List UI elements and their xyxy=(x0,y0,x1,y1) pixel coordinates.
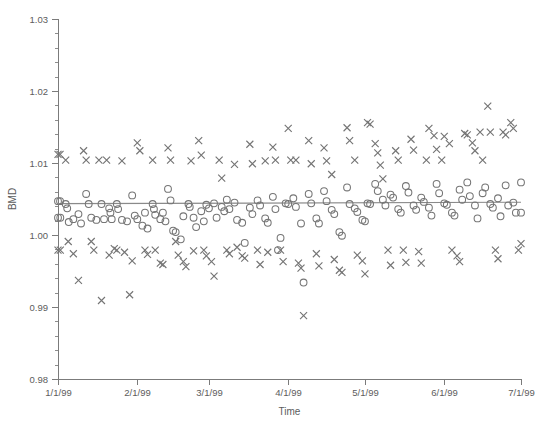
chart-canvas: 0.980.991.001.011.021.03 1/1/992/1/993/1… xyxy=(0,0,547,429)
y-tick-label: 0.98 xyxy=(30,374,49,385)
y-tick-label: 1.01 xyxy=(30,158,49,169)
y-tick-label: 1.02 xyxy=(30,86,49,97)
x-tick-label: 4/1/99 xyxy=(275,387,301,398)
bmd-time-scatter-chart: 0.980.991.001.011.021.03 1/1/992/1/993/1… xyxy=(0,0,547,429)
x-axis-title: Time xyxy=(279,406,301,417)
y-tick-label: 1.03 xyxy=(30,14,49,25)
y-axis-title: BMD xyxy=(7,188,18,210)
x-tick-label: 5/1/99 xyxy=(352,387,378,398)
x-tick-label: 1/1/99 xyxy=(45,387,71,398)
y-tick-label: 0.99 xyxy=(30,302,49,313)
x-tick-label: 3/1/99 xyxy=(196,387,222,398)
x-tick-label: 7/1/99 xyxy=(508,387,534,398)
x-tick-label: 6/1/99 xyxy=(431,387,457,398)
y-tick-label: 1.00 xyxy=(30,230,49,241)
x-tick-label: 2/1/99 xyxy=(124,387,150,398)
